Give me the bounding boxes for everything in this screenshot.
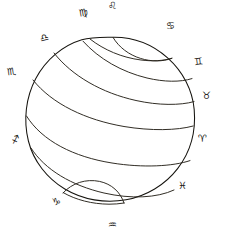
zodiac-glyph-scorpio: ♏ <box>7 67 16 77</box>
zodiac-glyph-scorpio-symbol: ♏ <box>6 66 16 77</box>
declination-arc-3 <box>54 53 194 104</box>
zodiac-glyph-virgo-symbol: ♍ <box>78 7 89 18</box>
zodiac-glyph-cancer-symbol: ♋ <box>166 21 175 31</box>
declination-arc-6 <box>31 148 174 197</box>
zodiac-glyph-aries: ♈ <box>198 134 207 144</box>
zodiac-glyph-sagittarius-symbol: ♐ <box>10 134 22 146</box>
zodiac-glyph-pisces: ♓ <box>178 181 187 191</box>
zodiac-glyph-aries-symbol: ♈ <box>198 134 207 144</box>
zodiac-glyph-gemini-symbol: ♊ <box>193 56 203 67</box>
zodiac-glyph-gemini: ♊ <box>194 57 203 67</box>
zodiac-glyph-capricorn: ♑ <box>52 197 61 207</box>
declination-arc-1 <box>90 39 172 61</box>
sphere-outline <box>26 37 195 201</box>
zodiac-glyph-taurus: ♉ <box>202 91 211 101</box>
celestial-sphere-figure: ♌ ♋ ♊ ♉ ♈ ♓ ♒ ♑ ♐ ♏ ♎ ♍ <box>0 0 229 245</box>
zodiac-glyph-taurus-symbol: ♉ <box>202 91 211 101</box>
zodiac-glyph-cancer: ♋ <box>166 21 175 31</box>
zodiac-glyph-leo: ♌ <box>108 1 117 11</box>
declination-arc-2 <box>83 41 192 81</box>
declination-arc-cap-top <box>113 37 172 61</box>
zodiac-glyph-leo-symbol: ♌ <box>108 1 118 12</box>
zodiac-glyph-virgo: ♍ <box>79 8 88 18</box>
zodiac-glyph-capricorn-symbol: ♑ <box>51 196 62 207</box>
zodiac-glyph-sagittarius: ♐ <box>11 135 20 145</box>
zodiac-glyph-pisces-symbol: ♓ <box>178 181 187 191</box>
sphere-drawing <box>0 0 229 245</box>
declination-arc-7 <box>63 193 124 205</box>
zodiac-glyph-aquarius-symbol: ♒ <box>108 220 117 230</box>
zodiac-glyph-libra: ♎ <box>40 33 49 43</box>
zodiac-glyph-aquarius: ♒ <box>108 220 117 230</box>
zodiac-glyph-libra-symbol: ♎ <box>39 32 50 44</box>
